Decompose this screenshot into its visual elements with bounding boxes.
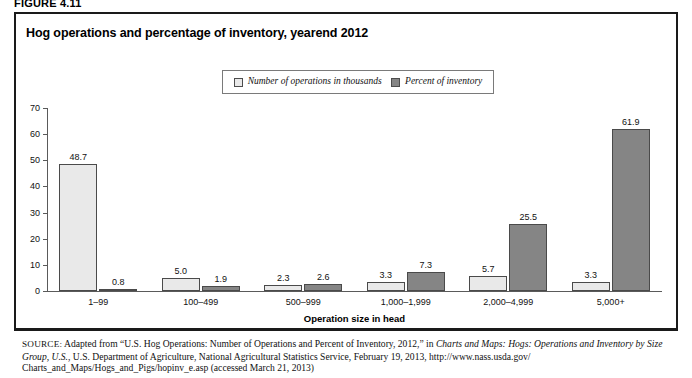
- x-axis-category-label: 500–999: [286, 297, 321, 307]
- dark-square-icon: [391, 78, 400, 87]
- bar-value-label: 2.3: [277, 273, 290, 283]
- bar-value-label: 7.3: [419, 260, 432, 270]
- bar-group: 3.361.95,000+: [560, 108, 663, 291]
- bar-column: 61.9: [612, 108, 650, 291]
- bar[interactable]: [59, 164, 97, 291]
- plot-area: 010203040506070 48.70.81–995.01.9100–499…: [47, 108, 662, 291]
- bar-value-label: 5.7: [482, 264, 495, 274]
- bar[interactable]: [469, 276, 507, 291]
- bar[interactable]: [612, 129, 650, 291]
- chart-title: Hog operations and percentage of invento…: [26, 26, 368, 40]
- source-prefix: SOURCE:: [22, 339, 62, 349]
- bar-column: 7.3: [407, 108, 445, 291]
- bar-column: 5.0: [162, 108, 200, 291]
- x-axis-category-label: 2,000–4,999: [483, 297, 533, 307]
- bar[interactable]: [572, 282, 610, 291]
- x-axis-line: [47, 291, 662, 292]
- bar-group: 48.70.81–99: [47, 108, 150, 291]
- figure-container: FIGURE 4.11 Hog operations and percentag…: [0, 0, 692, 378]
- source-divider: [14, 330, 678, 331]
- x-axis-category-label: 1,000–1,999: [381, 297, 431, 307]
- bar-pair: 3.37.3: [355, 108, 458, 291]
- bar-value-label: 3.3: [584, 270, 597, 280]
- y-axis-tick-label: 50: [30, 155, 40, 165]
- y-axis-tick-label: 0: [35, 286, 40, 296]
- bar[interactable]: [367, 282, 405, 291]
- bar-group: 2.32.6500–999: [252, 108, 355, 291]
- bar-group: 3.37.31,000–1,999: [355, 108, 458, 291]
- bar-column: 3.3: [367, 108, 405, 291]
- legend-label-operations: Number of operations in thousands: [248, 77, 382, 87]
- y-axis-tick-mark: [43, 291, 47, 292]
- chart-legend: Number of operations in thousands Percen…: [222, 70, 494, 94]
- legend-item-inventory: Percent of inventory: [391, 77, 482, 87]
- bar-column: 1.9: [202, 108, 240, 291]
- bar-column: 0.8: [99, 108, 137, 291]
- y-axis-tick-label: 30: [30, 208, 40, 218]
- bar-value-label: 1.9: [214, 274, 227, 284]
- bar-pair: 5.01.9: [150, 108, 253, 291]
- source-line-2-rest: , U.S. Department of Agriculture, Nation…: [68, 351, 530, 362]
- bar-value-label: 25.5: [519, 212, 537, 222]
- source-line-1-italic: Charts and Maps: Hogs: Operations and: [436, 338, 594, 349]
- bar-value-label: 0.8: [112, 277, 125, 287]
- bar[interactable]: [162, 278, 200, 291]
- y-axis-tick-label: 10: [30, 260, 40, 270]
- y-axis-tick-label: 20: [30, 234, 40, 244]
- bar[interactable]: [264, 285, 302, 291]
- bar-value-label: 48.7: [69, 152, 87, 162]
- source-line-1a: Adapted from “U.S. Hog Operations: Numbe…: [62, 338, 436, 349]
- y-axis-tick-label: 70: [30, 103, 40, 113]
- bar-column: 5.7: [469, 108, 507, 291]
- source-note: SOURCE: Adapted from “U.S. Hog Operation…: [22, 338, 674, 374]
- bar[interactable]: [509, 224, 547, 291]
- bar[interactable]: [407, 272, 445, 291]
- bar-pair: 2.32.6: [252, 108, 355, 291]
- light-square-icon: [234, 78, 243, 87]
- bar[interactable]: [202, 286, 240, 291]
- x-axis-category-label: 1–99: [88, 297, 108, 307]
- bar-value-label: 2.6: [317, 272, 330, 282]
- legend-item-operations: Number of operations in thousands: [234, 77, 382, 87]
- bar-group: 5.725.52,000–4,999: [457, 108, 560, 291]
- bar-column: 3.3: [572, 108, 610, 291]
- bar-groups: 48.70.81–995.01.9100–4992.32.6500–9993.3…: [47, 108, 662, 291]
- bar-pair: 5.725.5: [457, 108, 560, 291]
- bar-group: 5.01.9100–499: [150, 108, 253, 291]
- bar-pair: 48.70.8: [47, 108, 150, 291]
- source-line-3: Charts_and_Maps/Hogs_and_Pigs/hopinv_e.a…: [22, 362, 314, 373]
- y-axis-tick-label: 40: [30, 181, 40, 191]
- x-axis-title: Operation size in head: [47, 313, 662, 324]
- bar-value-label: 61.9: [622, 117, 640, 127]
- bar-pair: 3.361.9: [560, 108, 663, 291]
- bar-column: 48.7: [59, 108, 97, 291]
- x-axis-category-label: 5,000+: [597, 297, 625, 307]
- bar-value-label: 3.3: [379, 270, 392, 280]
- bar-value-label: 5.0: [174, 266, 187, 276]
- bar[interactable]: [304, 284, 342, 291]
- bar-column: 2.3: [264, 108, 302, 291]
- bar[interactable]: [99, 289, 137, 291]
- legend-label-inventory: Percent of inventory: [405, 77, 482, 87]
- bar-column: 25.5: [509, 108, 547, 291]
- figure-number-label: FIGURE 4.11: [14, 0, 82, 9]
- y-axis-tick-label: 60: [30, 129, 40, 139]
- x-axis-category-label: 100–499: [183, 297, 218, 307]
- bar-column: 2.6: [304, 108, 342, 291]
